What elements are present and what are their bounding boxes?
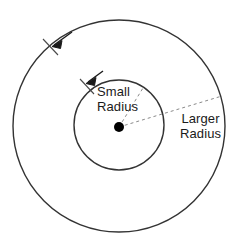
center-dot bbox=[114, 122, 124, 132]
radius-diagram: Small Radius Larger Radius bbox=[0, 0, 242, 251]
small-radius-label: Small Radius bbox=[97, 85, 138, 114]
larger-radius-label-line2: Radius bbox=[180, 127, 221, 142]
small-radius-label-line2: Radius bbox=[97, 100, 138, 115]
larger-radius-label-line1: Larger bbox=[180, 112, 221, 127]
small-radius-label-line1: Small bbox=[97, 85, 138, 100]
larger-radius-label: Larger Radius bbox=[180, 112, 221, 141]
outer-circle-arrow bbox=[43, 32, 72, 55]
